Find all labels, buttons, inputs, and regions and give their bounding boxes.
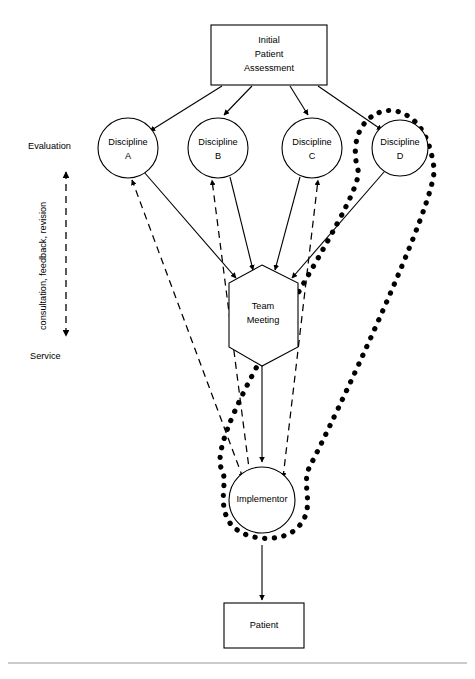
discipline-c-line-1: Discipline <box>292 137 331 147</box>
discipline-d-line-2: D <box>397 151 404 161</box>
axis-top-label: Evaluation <box>28 141 71 151</box>
node-discipline-b[interactable]: Discipline B <box>188 118 248 178</box>
discipline-b-line-2: B <box>215 151 221 161</box>
edge-assessment-discipline-c <box>290 86 308 115</box>
implementor-label: Implementor <box>236 494 287 504</box>
assessment-line-3: Assessment <box>244 63 294 73</box>
node-discipline-a[interactable]: Discipline A <box>98 118 158 178</box>
axis-bottom-label: Service <box>30 351 61 361</box>
edge-feedback-implementor-discipline-a <box>132 180 243 478</box>
patient-label: Patient <box>250 620 279 630</box>
edges-assessment-to-disciplines <box>150 86 382 131</box>
edge-discipline-a-team-meeting <box>144 172 236 278</box>
node-patient[interactable]: Patient <box>224 603 304 648</box>
team-meeting-line-2: Meeting <box>247 315 280 325</box>
evaluation-service-axis: Evaluation consultation, feedback, revis… <box>28 141 71 361</box>
node-initial-patient-assessment[interactable]: Initial Patient Assessment <box>211 25 327 85</box>
flow-diagram: Initial Patient Assessment Discipline A … <box>0 0 475 679</box>
discipline-d-line-1: Discipline <box>380 137 419 147</box>
axis-side-label: consultation, feedback, revision <box>38 202 48 330</box>
edge-discipline-b-team-meeting <box>230 177 253 270</box>
diagram-canvas: Initial Patient Assessment Discipline A … <box>0 0 475 679</box>
team-meeting-line-1: Team <box>252 301 275 311</box>
assessment-line-1: Initial <box>258 35 279 45</box>
edge-assessment-discipline-b <box>224 86 252 115</box>
discipline-c-line-2: C <box>309 151 316 161</box>
node-team-meeting[interactable]: Team Meeting <box>229 265 298 366</box>
discipline-b-line-1: Discipline <box>198 137 237 147</box>
node-discipline-d[interactable]: Discipline D <box>372 120 428 176</box>
discipline-a-line-1: Discipline <box>108 137 147 147</box>
node-implementor[interactable]: Implementor <box>229 467 295 533</box>
edges-disciplines-to-team-meeting <box>144 172 384 278</box>
discipline-a-line-2: A <box>125 151 132 161</box>
edge-discipline-c-team-meeting <box>275 177 300 270</box>
node-discipline-c[interactable]: Discipline C <box>282 118 342 178</box>
assessment-line-2: Patient <box>255 49 284 59</box>
edge-discipline-d-team-meeting <box>292 172 384 278</box>
